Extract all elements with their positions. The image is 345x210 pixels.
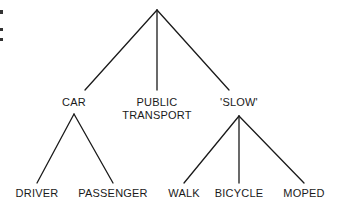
node-public-transport-line2: TRANSPORT xyxy=(122,109,191,122)
node-car: CAR xyxy=(62,96,86,109)
node-slow: 'SLOW' xyxy=(220,96,258,109)
edge-car-passenger xyxy=(74,114,113,183)
node-public-transport-line1: PUBLIC xyxy=(122,96,191,109)
leaf-driver: DRIVER xyxy=(16,187,59,200)
leaf-moped: MOPED xyxy=(283,187,324,200)
leaf-bicycle: BICYCLE xyxy=(215,187,263,200)
leaf-walk: WALK xyxy=(168,187,200,200)
leaf-passenger: PASSENGER xyxy=(78,187,147,200)
edge-root-slow xyxy=(157,10,229,90)
edge-root-car xyxy=(85,10,157,90)
edge-slow-walk xyxy=(184,116,239,183)
edge-slow-moped xyxy=(239,116,304,183)
node-public-transport: PUBLIC TRANSPORT xyxy=(122,96,191,122)
edge-car-driver xyxy=(37,114,74,183)
